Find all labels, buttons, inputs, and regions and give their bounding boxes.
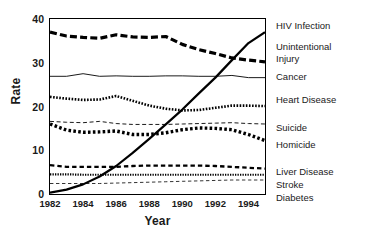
legend-label: Cancer [276, 71, 307, 83]
legend-label: Suicide [276, 122, 307, 134]
legend-item-homicide: Homicide [276, 139, 316, 151]
legend-label: Heart Disease [276, 94, 336, 106]
x-tick-1994: 1994 [238, 198, 259, 209]
x-tick-1986: 1986 [106, 198, 127, 209]
legend-item-hiv-infection: HIV Infection [276, 20, 330, 32]
legend-item-liver-disease: Liver Disease [276, 166, 334, 178]
series-line-homicide [50, 124, 265, 141]
series-line-cancer [50, 74, 265, 78]
legend-label: Stroke [276, 179, 303, 191]
y-tick-20: 20 [18, 101, 44, 113]
legend-item-cancer: Cancer [276, 71, 307, 83]
legend-label: Liver Disease [276, 166, 334, 178]
series-line-diabetes [50, 180, 265, 184]
y-tick-10: 10 [18, 144, 44, 156]
legend-label-line2: Injury [276, 53, 331, 65]
chart-legend: HIV InfectionUnintentionalInjuryCancerHe… [276, 0, 371, 242]
y-tick-40: 40 [18, 13, 44, 25]
legend-item-diabetes: Diabetes [276, 192, 314, 204]
legend-label: Unintentional [276, 41, 331, 53]
x-tick-1992: 1992 [205, 198, 226, 209]
series-line-suicide [50, 121, 265, 124]
chart-figure: Rate 010203040 1982198419861988199019921… [0, 0, 371, 242]
series-line-liver-disease [50, 165, 265, 169]
series-line-heart-disease [50, 96, 265, 110]
x-axis-label: Year [49, 214, 266, 228]
x-tick-1988: 1988 [139, 198, 160, 209]
legend-item-heart-disease: Heart Disease [276, 94, 336, 106]
x-tick-1984: 1984 [72, 198, 93, 209]
legend-item-stroke: Stroke [276, 179, 303, 191]
series-line-unintentional-injury [50, 32, 265, 62]
legend-label: HIV Infection [276, 20, 330, 32]
legend-label: Homicide [276, 139, 316, 151]
series-layer [50, 19, 265, 194]
plot-area [49, 18, 266, 195]
legend-item-unintentional: UnintentionalInjury [276, 41, 331, 64]
legend-label: Diabetes [276, 192, 314, 204]
legend-item-suicide: Suicide [276, 122, 307, 134]
series-line-hiv-infection [50, 32, 265, 193]
x-tick-1982: 1982 [39, 198, 60, 209]
x-tick-1990: 1990 [172, 198, 193, 209]
y-tick-30: 30 [18, 57, 44, 69]
